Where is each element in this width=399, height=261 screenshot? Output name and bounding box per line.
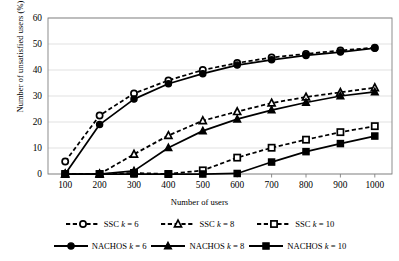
data-point-marker xyxy=(97,122,103,128)
x-tick-label: 500 xyxy=(196,180,210,190)
data-point-marker xyxy=(68,243,74,249)
data-point-marker xyxy=(234,155,240,161)
legend-swatch-circle-filled xyxy=(53,239,89,253)
data-point-marker xyxy=(269,145,275,151)
y-tick-label: 10 xyxy=(33,143,43,153)
legend-item-nachos-k-10[interactable]: NACHOS k = 10 xyxy=(248,239,346,253)
data-point-marker xyxy=(165,81,171,87)
data-point-marker xyxy=(200,71,206,77)
y-tick-label: 0 xyxy=(37,169,42,179)
x-tick-label: 400 xyxy=(161,180,175,190)
x-axis-title: Number of users xyxy=(0,197,399,207)
legend-item-ssc-k-10[interactable]: SSC k = 10 xyxy=(256,217,334,231)
data-point-marker xyxy=(372,133,378,139)
legend-item-nachos-k-8[interactable]: NACHOS k = 8 xyxy=(150,239,244,253)
y-tick-label: 30 xyxy=(33,91,43,101)
y-tick-label: 20 xyxy=(33,117,43,127)
data-point-marker xyxy=(269,159,275,165)
data-point-marker xyxy=(303,52,309,58)
x-tick-label: 600 xyxy=(230,180,244,190)
data-point-marker xyxy=(80,221,86,227)
data-point-marker xyxy=(200,171,206,177)
legend-item-ssc-k-8[interactable]: SSC k = 8 xyxy=(160,217,234,231)
legend-label: NACHOS k = 6 xyxy=(92,241,147,251)
y-tick-label: 50 xyxy=(33,39,43,49)
legend-swatch-circle-open xyxy=(65,217,101,231)
x-tick-label: 1000 xyxy=(365,180,384,190)
data-point-marker xyxy=(165,242,172,249)
chart-legend: SSC k = 6SSC k = 8SSC k = 10 NACHOS k = … xyxy=(0,213,399,257)
data-point-marker xyxy=(263,243,269,249)
data-point-marker xyxy=(62,158,68,164)
data-point-marker xyxy=(97,112,103,118)
data-point-marker xyxy=(337,49,343,55)
legend-label: NACHOS k = 8 xyxy=(189,241,244,251)
data-point-marker xyxy=(303,149,309,155)
legend-label: SSC k = 10 xyxy=(295,219,334,229)
data-point-marker xyxy=(372,45,378,51)
x-tick-label: 100 xyxy=(58,180,72,190)
x-tick-label: 800 xyxy=(299,180,313,190)
data-point-marker xyxy=(372,123,378,129)
legend-label: SSC k = 8 xyxy=(199,219,234,229)
y-tick-label: 60 xyxy=(33,13,43,23)
chart-figure: 0102030405060100200300400500600700800900… xyxy=(0,0,399,261)
data-point-marker xyxy=(131,96,137,102)
legend-row-ssc: SSC k = 6SSC k = 8SSC k = 10 xyxy=(0,213,399,235)
legend-label: SSC k = 6 xyxy=(104,219,139,229)
data-point-marker xyxy=(234,170,240,176)
data-point-marker xyxy=(337,140,343,146)
legend-swatch-triangle-filled xyxy=(150,239,186,253)
legend-swatch-square-open xyxy=(256,217,292,231)
data-point-marker xyxy=(97,171,103,177)
data-point-marker xyxy=(165,171,171,177)
data-point-marker xyxy=(337,129,343,135)
data-point-marker xyxy=(62,171,68,177)
legend-item-ssc-k-6[interactable]: SSC k = 6 xyxy=(65,217,139,231)
x-tick-label: 700 xyxy=(265,180,279,190)
legend-label: NACHOS k = 10 xyxy=(287,241,346,251)
x-tick-label: 200 xyxy=(93,180,107,190)
legend-swatch-square-filled xyxy=(248,239,284,253)
legend-row-nachos: NACHOS k = 6NACHOS k = 8NACHOS k = 10 xyxy=(0,235,399,257)
legend-item-nachos-k-6[interactable]: NACHOS k = 6 xyxy=(53,239,147,253)
chart-svg: 0102030405060100200300400500600700800900… xyxy=(0,0,399,200)
y-axis-title: Number of unsatisfied users (%) xyxy=(16,0,25,137)
data-point-marker xyxy=(131,171,137,177)
data-point-marker xyxy=(303,137,309,143)
y-tick-label: 40 xyxy=(33,65,43,75)
data-point-marker xyxy=(271,221,277,227)
data-point-marker xyxy=(269,57,275,63)
data-point-marker xyxy=(175,220,182,227)
plot-area: 0102030405060100200300400500600700800900… xyxy=(0,0,399,200)
data-point-marker xyxy=(234,62,240,68)
legend-swatch-triangle-open xyxy=(160,217,196,231)
x-tick-label: 900 xyxy=(333,180,347,190)
x-tick-label: 300 xyxy=(127,180,141,190)
